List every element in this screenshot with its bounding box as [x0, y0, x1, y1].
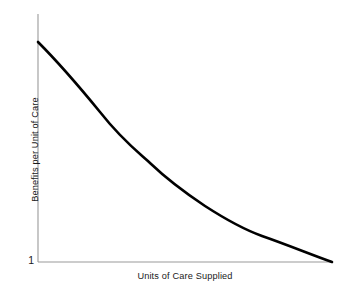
- benefit-curve: [38, 42, 332, 262]
- x-axis-label: Units of Care Supplied: [38, 271, 332, 281]
- y-axis-tick-label: 1: [20, 254, 34, 266]
- plot-area: [0, 0, 348, 299]
- chart-figure: Benefits per Unit of Care Units of Care …: [0, 0, 348, 299]
